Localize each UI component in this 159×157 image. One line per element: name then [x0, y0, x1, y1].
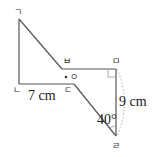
length-label-7cm: 7 cm	[28, 88, 56, 103]
edge-d-r	[74, 84, 116, 136]
angle-label-40: 40°	[97, 112, 117, 127]
edge-g-b	[19, 19, 62, 69]
vertex-label-b: ㅂ	[63, 56, 71, 66]
vertex-label-d: ㄷ	[64, 85, 72, 95]
geometry-figure: ㄱ ㄴ ㄷ ㄹ ㅁ ㅂ ㅇ 7 cm 9 cm 40°	[0, 0, 159, 157]
vertex-label-n: ㄴ	[13, 85, 21, 95]
center-point-dot	[65, 76, 68, 79]
vertex-label-m: ㅁ	[112, 56, 120, 66]
length-label-9cm: 9 cm	[119, 94, 147, 109]
center-point-label: ㅇ	[70, 72, 78, 82]
right-angle-mark	[108, 69, 116, 77]
vertex-label-r: ㄹ	[112, 141, 120, 151]
vertex-label-g: ㄱ	[14, 7, 22, 17]
